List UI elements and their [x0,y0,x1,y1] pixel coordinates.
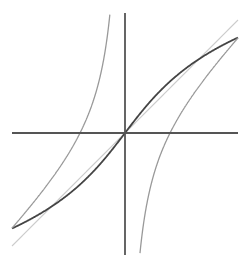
function-plot [0,0,252,269]
hyperbola-right-branch [140,38,238,253]
hyperbola-left-branch [12,15,110,228]
